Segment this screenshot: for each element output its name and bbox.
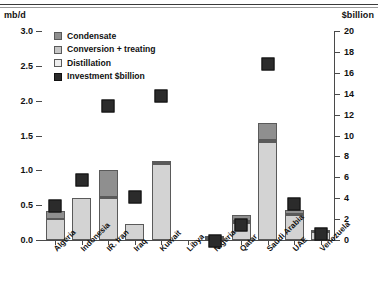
investment-marker[interactable] (314, 227, 327, 240)
right-axis-tick (334, 219, 340, 220)
left-axis-unit: mb/d (4, 10, 26, 20)
right-axis-tick-label: 8 (344, 151, 349, 161)
legend-swatch-conv (54, 46, 62, 54)
left-axis-tick-label: 0.0 (20, 235, 33, 245)
right-axis-tick-label: 12 (344, 110, 354, 120)
bar-stack[interactable] (205, 31, 224, 240)
left-axis-tick (36, 240, 42, 241)
bar-segment-condensate (152, 161, 171, 163)
investment-marker[interactable] (235, 218, 248, 231)
right-axis-tick (334, 94, 340, 95)
left-axis-tick-label: 1.5 (20, 131, 33, 141)
chart-legend: CondensateConversion + treatingDistillat… (54, 30, 156, 84)
investment-marker[interactable] (208, 235, 221, 248)
legend-item[interactable]: Distillation (54, 57, 156, 69)
right-axis-tick (334, 177, 340, 178)
right-axis-unit: $billion (342, 10, 374, 20)
legend-label: Conversion + treating (67, 45, 156, 54)
bar-segment-condensate (258, 123, 277, 140)
right-axis-tick-label: 4 (344, 193, 349, 203)
right-axis-tick (334, 198, 340, 199)
investment-marker[interactable] (261, 57, 274, 70)
legend-item[interactable]: Condensate (54, 30, 156, 42)
right-axis-tick (334, 115, 340, 116)
header-rule (0, 4, 378, 5)
left-axis-tick-label: 3.0 (20, 26, 33, 36)
right-axis-tick (334, 73, 340, 74)
legend-label: Distillation (67, 59, 111, 68)
right-axis-tick-label: 16 (344, 68, 354, 78)
right-axis-tick-label: 14 (344, 89, 354, 99)
investment-marker[interactable] (288, 197, 301, 210)
bar-segment-conversion (258, 140, 277, 142)
legend-item[interactable]: Conversion + treating (54, 44, 156, 56)
legend-label: Condensate (67, 32, 116, 41)
legend-swatch-dist (54, 59, 62, 67)
chart-root: mb/d $billion 0.00.51.01.52.02.53.0 0246… (0, 0, 378, 288)
legend-swatch-inv (54, 73, 62, 81)
left-axis-tick-label: 2.5 (20, 61, 33, 71)
right-axis-tick-label: 0 (344, 235, 349, 245)
bar-segment-distillation (258, 142, 277, 240)
right-axis-tick-label: 6 (344, 172, 349, 182)
right-axis-tick-label: 18 (344, 47, 354, 57)
right-axis-tick (334, 31, 340, 32)
right-axis-tick-label: 10 (344, 131, 354, 141)
left-axis-tick-label: 2.0 (20, 96, 33, 106)
bar-segment-distillation (152, 164, 171, 240)
left-axis-tick-label: 1.0 (20, 165, 33, 175)
header-rule-secondary (0, 7, 378, 8)
left-axis-tick-label: 0.5 (20, 200, 33, 210)
bar-segment-condensate (99, 170, 118, 196)
investment-marker[interactable] (102, 100, 115, 113)
right-axis-tick (334, 136, 340, 137)
legend-item[interactable]: Investment $billion (54, 71, 156, 83)
investment-marker[interactable] (128, 191, 141, 204)
right-axis-tick (334, 52, 340, 53)
bar-stack[interactable] (232, 31, 251, 240)
investment-marker[interactable] (155, 89, 168, 102)
investment-marker[interactable] (75, 173, 88, 186)
bar-stack[interactable] (311, 31, 330, 240)
bar-segment-condensate (46, 211, 65, 219)
bar-stack[interactable] (179, 31, 198, 240)
investment-marker[interactable] (49, 199, 62, 212)
legend-swatch-cond (54, 32, 62, 40)
right-axis-tick-label: 20 (344, 26, 354, 36)
right-axis-tick (334, 156, 340, 157)
legend-label: Investment $billion (67, 72, 145, 81)
